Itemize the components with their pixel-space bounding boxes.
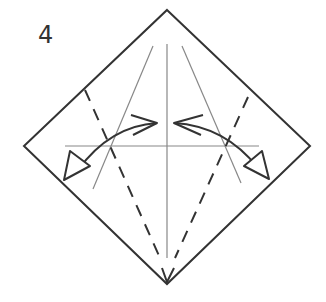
left-valley-fold-line	[85, 90, 160, 258]
right-valley-fold-line	[175, 97, 248, 258]
left-arrowhead-icon	[64, 151, 90, 180]
left-diagonal-crease	[93, 46, 153, 189]
right-fold-arrow	[174, 115, 269, 179]
origami-diagram: 4	[0, 0, 326, 302]
step-number: 4	[38, 21, 53, 49]
right-diagonal-crease	[182, 46, 241, 183]
